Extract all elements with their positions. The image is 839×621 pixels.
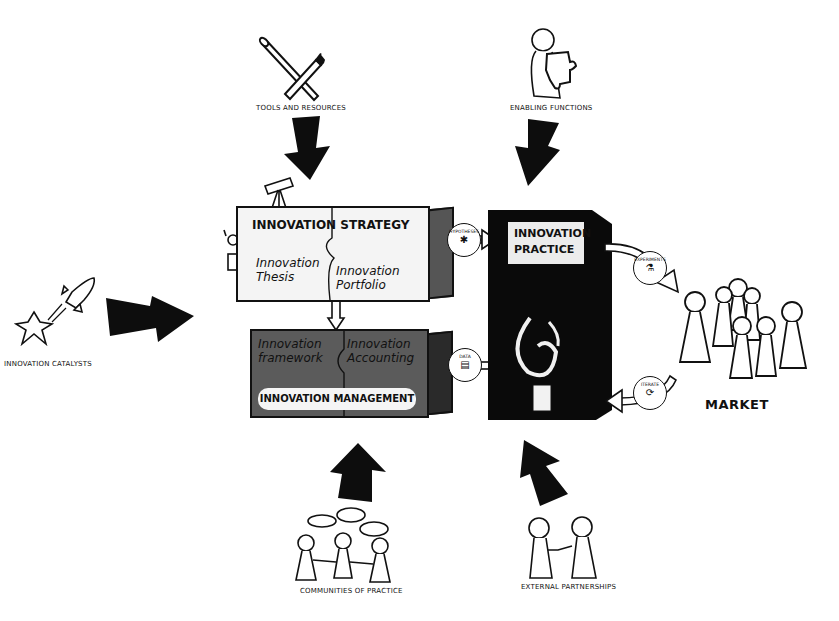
strategy-box-side <box>428 207 454 300</box>
partnership-handshake-icon <box>529 517 596 578</box>
strategy-piece-thesis: Innovation Thesis <box>256 256 326 284</box>
badge-iterate: Iterate ⟳ <box>633 376 667 410</box>
practice-title-line1: INNOVATION <box>514 226 578 242</box>
arrow-up-communities-icon <box>330 443 386 502</box>
practice-door <box>533 385 551 411</box>
innovation-practice-label: INNOVATION PRACTICE <box>508 222 584 264</box>
management-title: INNOVATION MANAGEMENT <box>258 388 416 410</box>
caption-external-partnerships: External partnerships <box>521 583 616 591</box>
badge-hypotheses: Hypotheses ✱ <box>447 223 481 257</box>
caption-communities-of-practice: Communities of practice <box>300 587 403 595</box>
caption-innovation-catalysts: Innovation catalysts <box>4 360 92 368</box>
communities-figures-icon <box>296 508 390 582</box>
flask-icon: ⚗ <box>634 262 666 273</box>
innovation-strategy-box: INNOVATION STRATEGY Innovation Thesis In… <box>236 206 430 302</box>
tools-icon <box>258 36 324 100</box>
data-icon: ▤ <box>449 359 481 370</box>
caption-tools-and-resources: Tools and resources <box>256 104 346 112</box>
arrow-up-partnerships-icon <box>520 440 568 506</box>
rocket-icon <box>16 278 94 344</box>
diagram-artwork <box>0 0 839 621</box>
puzzle-icon: ✱ <box>448 234 480 245</box>
arrow-right-catalysts-icon <box>106 296 194 342</box>
arrow-down-tools-icon <box>284 116 330 180</box>
arrow-down-enabling-icon <box>515 119 560 186</box>
market-label: MARKET <box>705 397 769 412</box>
market-crowd-icon <box>680 279 806 378</box>
telescope-icon <box>265 178 293 208</box>
badge-data: Data ▤ <box>448 348 482 382</box>
management-piece-framework: Innovation framework <box>258 337 328 365</box>
caption-enabling-functions: Enabling functions <box>510 104 593 112</box>
cycle-icon: ⟳ <box>634 387 666 398</box>
puzzle-seam-icon <box>324 208 354 300</box>
practice-title-line2: PRACTICE <box>514 242 578 258</box>
enabling-figure-icon <box>531 29 576 98</box>
badge-experiments: Experiments ⚗ <box>633 251 667 285</box>
